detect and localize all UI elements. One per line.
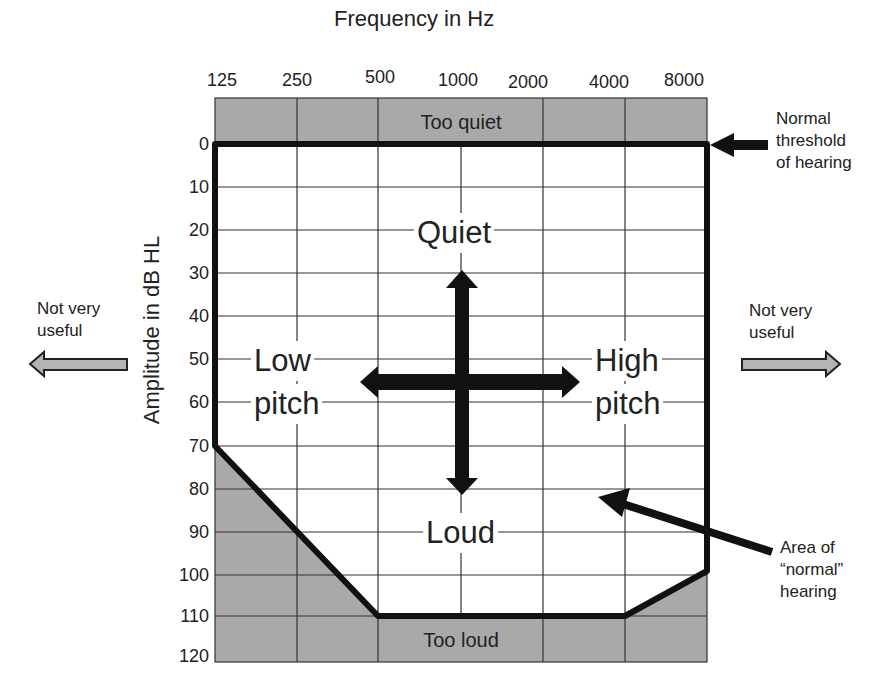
too-loud-label: Too loud — [423, 629, 499, 652]
y-tick-label: 80 — [189, 479, 209, 500]
x-tick-label: 2000 — [508, 72, 548, 93]
y-tick-label: 110 — [180, 606, 209, 627]
x-tick-label: 250 — [282, 70, 312, 91]
high-pitch-label: pitch — [592, 384, 663, 424]
y-tick-label: 30 — [189, 263, 209, 284]
x-tick-label: 500 — [365, 67, 395, 88]
area-note: Area of “normal” hearing — [780, 537, 843, 603]
right-note: Not very useful — [749, 300, 812, 344]
y-tick-label: 100 — [179, 565, 209, 586]
x-tick-label: 8000 — [664, 70, 704, 91]
threshold-note: Normal threshold of hearing — [776, 108, 852, 174]
y-tick-label: 120 — [179, 646, 209, 667]
loud-label: Loud — [423, 513, 498, 553]
y-tick-label: 60 — [189, 392, 209, 413]
y-axis-title: Amplitude in dB HL — [139, 236, 165, 424]
x-tick-label: 125 — [207, 70, 237, 91]
y-tick-label: 40 — [189, 306, 209, 327]
x-tick-label: 4000 — [589, 72, 629, 93]
x-axis-title: Frequency in Hz — [334, 6, 494, 32]
y-tick-label: 50 — [189, 349, 209, 370]
y-tick-label: 10 — [189, 177, 209, 198]
low-pitch-label: pitch — [251, 384, 322, 424]
y-tick-label: 90 — [189, 522, 209, 543]
threshold-arrow-icon — [710, 133, 768, 157]
high-label: High — [592, 341, 662, 381]
cross-arrows-icon — [360, 270, 580, 495]
y-tick-label: 70 — [189, 436, 209, 457]
right-arrow-icon — [742, 352, 840, 376]
left-arrow-icon — [30, 352, 127, 376]
too-quiet-label: Too quiet — [420, 111, 501, 134]
left-note: Not very useful — [37, 298, 100, 342]
low-label: Low — [251, 341, 314, 381]
y-tick-label: 20 — [189, 220, 209, 241]
area-arrow-icon — [598, 488, 772, 552]
quiet-label: Quiet — [414, 213, 494, 253]
y-tick-label: 0 — [199, 134, 209, 155]
x-tick-label: 1000 — [438, 70, 478, 91]
